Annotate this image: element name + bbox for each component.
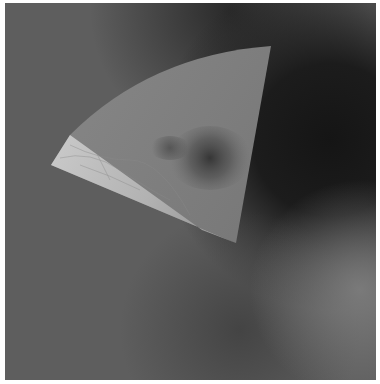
planetary-image	[5, 3, 376, 380]
dark-surface-patch	[150, 136, 190, 160]
planet-scene	[5, 3, 376, 380]
